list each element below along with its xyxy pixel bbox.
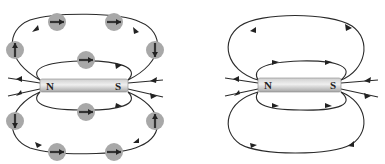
right-bar-magnet: N S	[258, 78, 341, 92]
arrow-icon	[150, 93, 157, 99]
arrow-icon	[272, 103, 279, 108]
arrow-icon	[348, 141, 354, 147]
arrow-icon	[250, 27, 256, 33]
arrow-icon	[325, 103, 332, 108]
arrow-icon	[133, 27, 139, 34]
arrow-icon	[234, 90, 240, 96]
compass-icon	[146, 112, 164, 130]
south-pole-label: S	[330, 79, 336, 91]
compass-icon	[48, 13, 66, 31]
field-line-inner-bottom	[256, 92, 346, 110]
north-pole-label: N	[264, 79, 272, 91]
magnetic-field-diagram: N S N S	[0, 0, 385, 164]
field-line-outer-bottom	[228, 92, 364, 153]
compass-icon	[105, 13, 123, 31]
arrow-icon	[233, 76, 239, 82]
arrow-icon	[16, 90, 22, 96]
compass-icon	[146, 41, 164, 59]
left-bar-magnet: N S	[40, 79, 128, 92]
arrow-icon	[150, 77, 157, 83]
field-line-right-1	[128, 80, 163, 83]
compass-icon	[6, 112, 24, 130]
south-pole-label: S	[115, 80, 121, 92]
arrow-icon	[133, 138, 139, 143]
field-line-right-2	[128, 89, 163, 97]
field-line-right-2	[341, 89, 378, 97]
arrow-icon	[364, 77, 371, 83]
arrow-icon	[250, 143, 257, 148]
field-line-left-1	[8, 78, 40, 83]
field-line-inner-top	[256, 61, 346, 80]
field-line-outer-top	[12, 14, 157, 80]
field-line-outer-top	[228, 16, 364, 81]
north-pole-label: N	[46, 80, 54, 92]
field-line-left-2	[225, 89, 258, 96]
arrow-icon	[16, 76, 22, 82]
arrow-icon	[364, 93, 371, 99]
field-line-outer-bottom	[12, 92, 157, 154]
compass-icon	[6, 41, 24, 59]
compass-icon	[77, 51, 95, 69]
compass-icon	[48, 143, 66, 161]
arrow-icon	[32, 25, 39, 32]
compass-icon	[77, 103, 95, 121]
compass-icon	[105, 143, 123, 161]
field-line-right-1	[341, 80, 378, 83]
arrow-icon	[35, 142, 42, 148]
